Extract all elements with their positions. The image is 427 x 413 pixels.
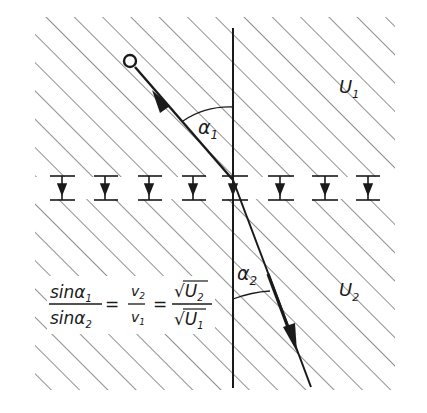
svg-text:=: = [105, 294, 119, 314]
snell-formula: sinα1 sinα2 = v2 v1 = √U2 √U1 [47, 276, 215, 334]
hatched-area [35, 17, 395, 390]
refraction-diagram: α1 α2 U1 U2 sinα1 sinα2 = v2 v1 = √U2 √U… [0, 0, 427, 413]
svg-text:=: = [153, 294, 167, 314]
electron-source-icon [124, 55, 136, 67]
